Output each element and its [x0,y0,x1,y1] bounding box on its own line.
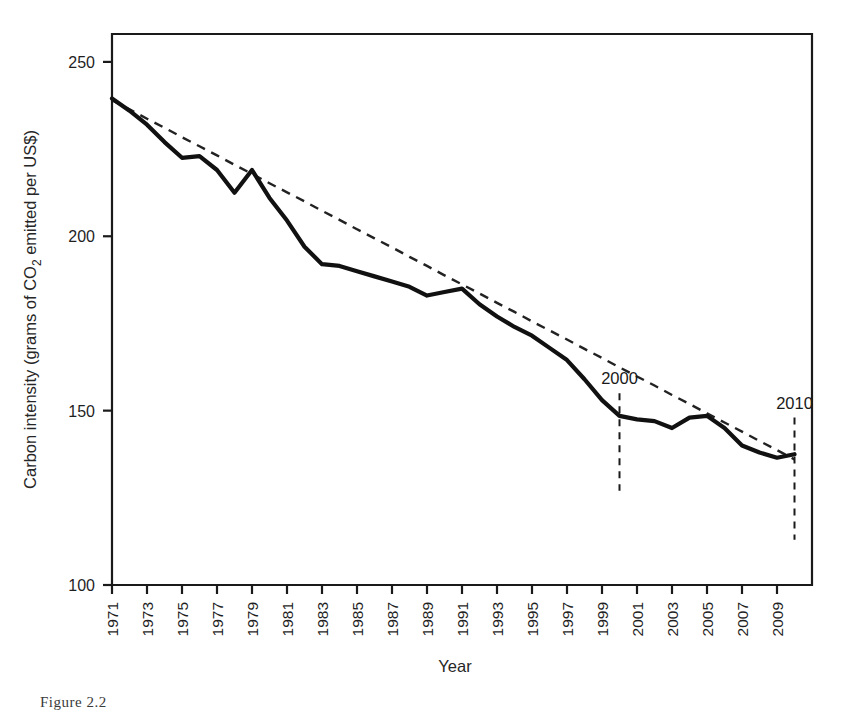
y-axis-title-text: Carbon intensity (grams of CO2 emitted p… [21,130,44,489]
x-tick-label: 2005 [699,602,716,636]
y-tick-label: 150 [68,403,95,420]
annotation-label: 2000 [601,369,638,387]
x-tick-label: 1983 [314,602,331,636]
y-tick-label: 200 [68,228,95,245]
x-tick-label: 1973 [139,602,156,636]
x-tick-label: 1991 [454,602,471,636]
y-axis-ticks: 100150200250 [68,54,112,594]
plot-border [112,34,812,585]
x-tick-label: 1999 [594,602,611,636]
x-tick-label: 2007 [734,602,751,636]
x-tick-label: 1979 [244,602,261,636]
figure-caption: Figure 2.2 [40,694,107,711]
x-tick-label: 1997 [559,602,576,636]
series-polyline [112,99,795,458]
x-tick-label: 1975 [174,602,191,636]
trend-line [112,100,795,459]
x-tick-label: 2003 [664,602,681,636]
y-tick-label: 250 [68,54,95,71]
x-tick-label: 1993 [489,602,506,636]
x-tick-label: 1985 [349,602,366,636]
x-tick-label: 1971 [104,602,121,636]
trend-polyline [112,100,795,459]
carbon-intensity-line-chart: 100150200250 197119731975197719791981198… [0,0,849,680]
plot-frame [112,34,812,585]
x-tick-label: 1995 [524,602,541,636]
x-tick-label: 2009 [769,602,786,636]
x-tick-label: 1977 [209,602,226,636]
x-tick-label: 1989 [419,602,436,636]
x-axis-title: Year [438,657,472,675]
x-tick-label: 1981 [279,602,296,636]
y-tick-label: 100 [68,577,95,594]
x-tick-label: 1987 [384,602,401,636]
annotation-label: 2010 [776,394,813,412]
data-line [112,99,795,458]
x-tick-label: 2001 [629,602,646,636]
figure-container: 100150200250 197119731975197719791981198… [0,0,849,716]
x-axis-ticks: 1971197319751977197919811983198519871989… [104,585,786,636]
annotations: 20002010 [601,369,813,539]
y-axis-title: Carbon intensity (grams of CO2 emitted p… [21,130,44,489]
